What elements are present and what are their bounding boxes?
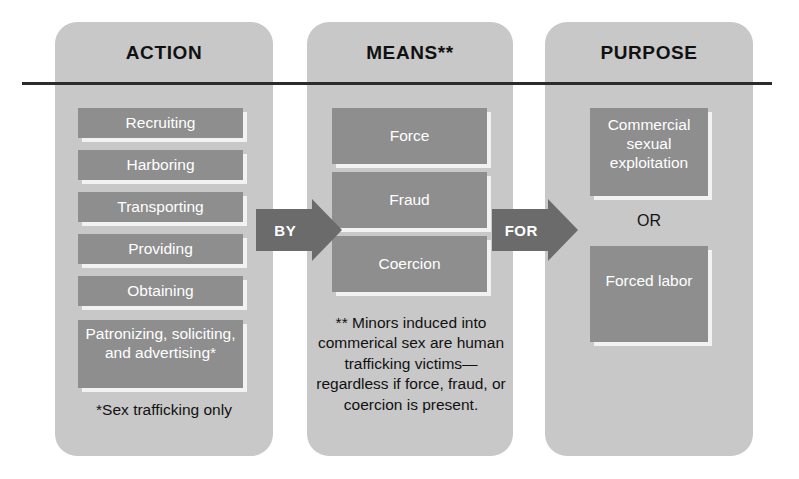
action-item-recruiting: Recruiting (78, 108, 243, 138)
action-item-transporting: Transporting (78, 192, 243, 222)
means-item-force: Force (332, 108, 487, 164)
footnote-action: *Sex trafficking only (63, 400, 265, 420)
connector-arrow-for-label: FOR (492, 199, 550, 261)
means-item-fraud: Fraud (332, 172, 487, 228)
trafficking-diagram: ACTION Recruiting Harboring Transporting… (0, 0, 799, 479)
action-item-obtaining: Obtaining (78, 276, 243, 306)
column-header-action: ACTION (55, 42, 273, 64)
action-item-harboring: Harboring (78, 150, 243, 180)
purpose-separator-or: OR (590, 212, 708, 230)
connector-arrow-for: FOR (492, 199, 578, 261)
purpose-item-forced-labor: Forced labor (590, 246, 708, 342)
action-item-patronizing: Patronizing, soliciting, and advertising… (78, 320, 243, 388)
footnote-means: ** Minors induced into commerical sex ar… (315, 313, 507, 415)
connector-arrow-by: BY (256, 199, 342, 261)
purpose-item-commercial-sexual-exploitation: Commercial sexual exploitation (590, 108, 708, 196)
action-item-providing: Providing (78, 234, 243, 264)
header-divider-rule (22, 82, 772, 85)
column-header-purpose: PURPOSE (545, 42, 753, 64)
means-item-coercion: Coercion (332, 236, 487, 292)
column-header-means: MEANS** (307, 42, 513, 64)
connector-arrow-by-label: BY (256, 199, 314, 261)
